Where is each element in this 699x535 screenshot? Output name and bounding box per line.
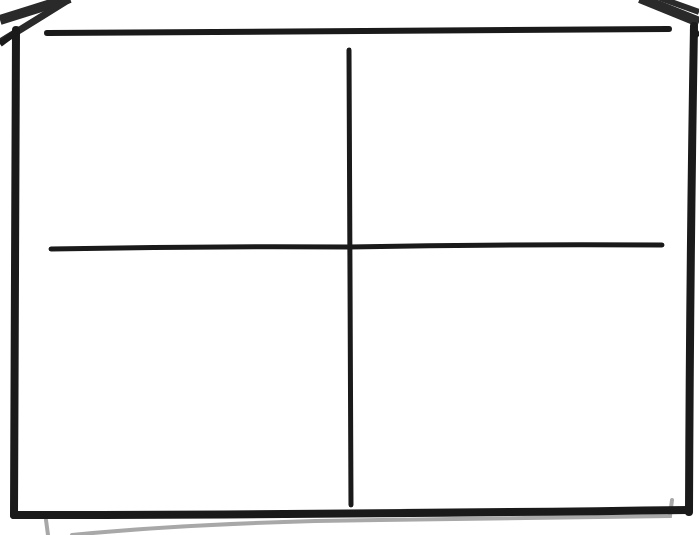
vertical-divider (349, 50, 351, 505)
quadrant-top-left[interactable] (22, 40, 347, 245)
quadrant-top-right[interactable] (353, 40, 685, 243)
quadrant-bottom-left[interactable] (22, 252, 347, 510)
title-line (47, 29, 669, 33)
horizontal-divider (51, 245, 662, 249)
title-area[interactable] (46, 6, 670, 28)
quadrant-bottom-right[interactable] (353, 250, 685, 508)
